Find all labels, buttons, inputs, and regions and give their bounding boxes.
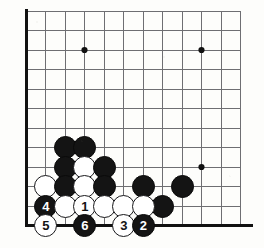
stone-move-number: 5 (42, 219, 49, 232)
numbered-stone-6[interactable]: 6 (73, 214, 96, 237)
star-point (198, 47, 204, 53)
go-board-diagram: 415632 (0, 0, 264, 248)
numbered-stone-5[interactable]: 5 (34, 214, 57, 237)
stone-move-number: 3 (120, 219, 127, 232)
stone-move-number: 6 (81, 219, 88, 232)
star-point (81, 47, 87, 53)
star-point (198, 164, 204, 170)
stone-move-number: 1 (81, 199, 88, 212)
stone-move-number: 4 (42, 199, 49, 212)
numbered-stone-2[interactable]: 2 (132, 214, 155, 237)
stone-black[interactable] (171, 175, 194, 198)
stone-move-number: 2 (140, 219, 147, 232)
